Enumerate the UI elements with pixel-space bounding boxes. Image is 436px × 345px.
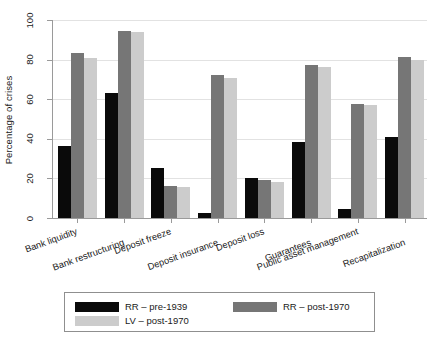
y-tick-mark xyxy=(47,99,52,100)
x-tick-mark xyxy=(405,219,406,223)
bar xyxy=(164,186,177,218)
legend: RR – pre-1939RR – post-1970LV – post-197… xyxy=(64,292,375,332)
x-axis-line xyxy=(52,218,427,219)
bar xyxy=(351,104,364,218)
legend-swatch xyxy=(75,316,119,326)
bar xyxy=(305,65,318,218)
legend-label: RR – post-1970 xyxy=(283,301,350,313)
y-tick-label: 20 xyxy=(24,165,35,191)
legend-swatch xyxy=(233,302,277,312)
bar-group xyxy=(151,20,190,218)
bar xyxy=(271,182,284,218)
bar xyxy=(411,60,424,218)
bar xyxy=(224,78,237,218)
bar xyxy=(318,67,331,218)
bar-chart-figure: Percentage of crises 020406080100 Bank l… xyxy=(0,0,436,345)
bar xyxy=(385,137,398,218)
bar-group xyxy=(385,20,424,218)
legend-swatch xyxy=(75,302,119,312)
bar xyxy=(211,75,224,218)
bar-group xyxy=(105,20,144,218)
legend-label: LV – post-1970 xyxy=(125,315,189,327)
bar-group xyxy=(338,20,377,218)
y-tick-label: 60 xyxy=(24,86,35,112)
x-tick-mark xyxy=(264,219,265,223)
bar-group xyxy=(198,20,237,218)
y-tick-label: 100 xyxy=(24,7,35,33)
x-tick-mark xyxy=(77,219,78,223)
bar xyxy=(71,53,84,218)
x-tick-mark xyxy=(311,219,312,223)
y-tick-mark xyxy=(47,218,52,219)
y-tick-mark xyxy=(47,60,52,61)
y-tick-label: 80 xyxy=(24,47,35,73)
y-tick-mark xyxy=(47,178,52,179)
bar xyxy=(151,168,164,218)
bar-group xyxy=(245,20,284,218)
bar xyxy=(364,105,377,218)
bar xyxy=(105,93,118,218)
bar-group xyxy=(292,20,331,218)
bar xyxy=(258,180,271,218)
bar xyxy=(292,142,305,218)
bar xyxy=(198,213,211,218)
x-tick-mark xyxy=(171,219,172,223)
bar xyxy=(118,31,131,218)
y-tick-mark xyxy=(47,139,52,140)
bar-group xyxy=(58,20,97,218)
y-tick-mark xyxy=(47,20,52,21)
y-tick-label: 40 xyxy=(24,126,35,152)
legend-label: RR – pre-1939 xyxy=(125,301,187,313)
bar xyxy=(177,187,190,218)
y-axis-title: Percentage of crises xyxy=(2,22,16,218)
y-tick-label: 0 xyxy=(24,205,35,231)
x-tick-mark xyxy=(218,219,219,223)
x-tick-mark xyxy=(124,219,125,223)
bar xyxy=(84,58,97,218)
bar xyxy=(338,209,351,218)
x-tick-mark xyxy=(358,219,359,223)
bar xyxy=(398,57,411,218)
bar xyxy=(245,178,258,218)
plot-area xyxy=(53,20,427,218)
bar xyxy=(131,32,144,218)
bar xyxy=(58,146,71,218)
